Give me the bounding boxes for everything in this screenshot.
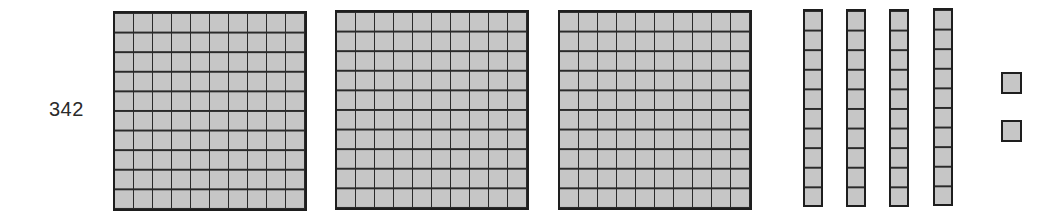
tens-rod-2 bbox=[846, 9, 866, 207]
tens-rod-3 bbox=[889, 9, 909, 207]
ones-unit-2 bbox=[1001, 120, 1022, 142]
tens-rod-4 bbox=[933, 8, 953, 206]
tens-rod-1 bbox=[803, 9, 823, 207]
hundreds-flat-3 bbox=[558, 10, 752, 210]
ones-unit-1 bbox=[1001, 72, 1022, 94]
number-label: 342 bbox=[49, 98, 84, 121]
hundreds-flat-1 bbox=[113, 11, 307, 211]
hundreds-flat-2 bbox=[335, 10, 529, 210]
